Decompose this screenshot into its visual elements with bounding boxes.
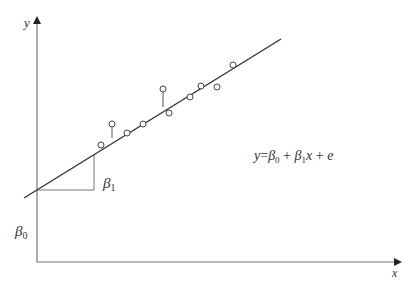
y-axis-label: y [22,15,30,30]
data-point [214,84,220,90]
intercept-label-sub: 0 [22,230,27,241]
data-point [198,83,204,89]
data-point [187,94,193,100]
eq-plus1: + [280,148,295,163]
eq-beta1: β [294,148,302,163]
data-point [230,62,236,68]
slope-label-sub: 1 [110,182,115,193]
eq-plus2: + [312,148,327,163]
data-point [140,121,146,127]
eq-beta0: β [267,148,275,163]
regression-line [24,39,281,198]
data-point [160,86,166,92]
slope-label: β1 [102,175,115,193]
x-axis-label: x [391,266,398,280]
eq-error: e [327,148,333,163]
data-point [109,121,115,127]
intercept-label: β0 [14,223,27,241]
data-point [166,110,172,116]
data-points [98,62,236,148]
data-point [98,142,104,148]
eq-equals: = [260,148,268,163]
regression-diagram: y x β1 β0 y=β0 + β1x + e [0,0,416,286]
regression-equation: y=β0 + β1x + e [252,148,333,165]
data-point [124,130,130,136]
